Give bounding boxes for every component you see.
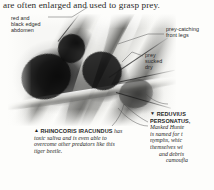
annotation-front-legs: prey-catching front legs: [166, 26, 199, 38]
caption-right-line-6: themselves wi: [150, 144, 214, 151]
annotation-front-legs-line-2: front legs: [166, 32, 199, 38]
document-page: are often enlarged and used to grasp pre…: [0, 0, 214, 190]
caption-left-line-3: overcome other predators like this: [34, 141, 138, 148]
caption-rhinocoris: ▲ RHINOCORIS IRACUNDUS has toxic saliva …: [34, 128, 138, 154]
caption-left-line-1: has: [114, 128, 122, 134]
caption-down-triangle-icon: ▼: [150, 110, 155, 116]
caption-left-line-2: toxic saliva and is even able to: [34, 135, 138, 142]
body-text: are often enlarged and used to grasp pre…: [3, 0, 211, 11]
annotation-prey-line-3: dry: [145, 64, 162, 70]
annotation-prey-sucked-dry: prey sucked dry: [145, 52, 162, 71]
caption-up-triangle-icon: ▲: [34, 128, 39, 133]
caption-right-line-1: REDUVIUS: [157, 111, 186, 117]
caption-left-line-4: tiger beetle.: [34, 148, 138, 155]
caption-reduvius: ▼ REDUVIUS PERSONATUS, Masked Hunte is n…: [150, 110, 214, 190]
annotation-abdomen: red and black edged abdomen: [11, 15, 41, 34]
caption-right-line-7: and debris: [150, 151, 214, 158]
caption-right-line-4: is named for t: [150, 131, 214, 138]
caption-right-line-3: Masked Hunte: [150, 124, 214, 131]
caption-right-line-8: camoufla: [150, 157, 214, 164]
annotation-abdomen-line-3: abdomen: [11, 27, 41, 33]
caption-right-line-2: PERSONATUS,: [150, 118, 214, 125]
caption-right-line-5: nymphs, whic: [150, 137, 214, 144]
caption-species-name: RHINOCORIS IRACUNDUS: [40, 128, 112, 134]
